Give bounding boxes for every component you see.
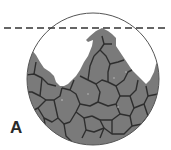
tissue-diagram xyxy=(0,0,171,150)
cell-sheet xyxy=(20,28,170,150)
panel-label: A xyxy=(10,119,22,136)
